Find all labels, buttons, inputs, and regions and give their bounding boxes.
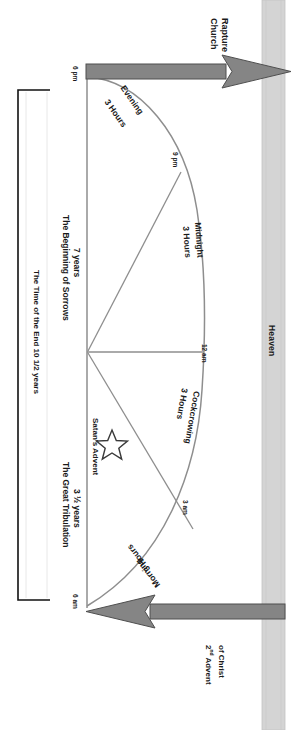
church-rapture-arrow — [86, 55, 291, 88]
second-advent-word: Advent — [204, 656, 213, 685]
heaven-label: Heaven — [267, 325, 276, 356]
great-tribulation-label-line2: 3 ½ years — [72, 489, 81, 528]
chord-evening-to-center — [88, 172, 181, 351]
time-mark-6am: 6 am — [72, 594, 79, 609]
time-mark-9pm: 9 pm — [172, 152, 179, 167]
watch-midnight-duration: 3 Hours — [181, 226, 192, 258]
second-advent-arrow — [86, 595, 285, 628]
watch-midnight-name: Midnight — [193, 222, 205, 258]
beginning-of-sorrows-label-line1: The Beginning of Sorrows — [61, 215, 70, 321]
satans-advent-label: Satan's Advent — [90, 418, 99, 475]
heaven-band — [262, 0, 285, 730]
great-tribulation-label-line1: The Great Tribulation — [61, 462, 70, 547]
beginning-of-sorrows-label-line2: 7 years — [72, 248, 81, 277]
night-watch-curve — [87, 77, 205, 606]
time-mark-12am: 12 am — [201, 344, 208, 362]
second-advent-label-line2: of Christ — [216, 645, 225, 678]
time-mark-6pm: 6 pm — [72, 66, 79, 81]
church-rapture-label-line1: Church — [208, 18, 218, 50]
star-icon — [97, 430, 128, 459]
time-mark-3am: 3 am — [182, 500, 189, 515]
time-of-end-label: The Time of the End 10 1/2 years — [31, 270, 40, 394]
diagram-canvas: Heaven Church Rapture 2nd Advent of Chri… — [0, 0, 301, 730]
diagram-vector-layer — [0, 0, 301, 730]
church-rapture-label-line2: Rapture — [219, 18, 229, 52]
second-advent-label-line1: 2nd Advent — [204, 645, 214, 685]
